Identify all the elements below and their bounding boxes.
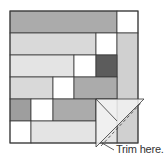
quilt-piece-white (53, 77, 74, 99)
quilt-piece-medium (53, 99, 96, 121)
quilt-piece-white (10, 121, 31, 143)
quilt-piece-light (10, 55, 74, 77)
quilt-piece-light (31, 121, 96, 143)
quilt-piece-light-striped (10, 77, 53, 99)
quilt-piece-dark (96, 55, 117, 77)
quilt-piece-white (96, 33, 117, 55)
quilt-diagram: Trim here. (0, 0, 167, 168)
trim-annotation: Trim here. (116, 143, 164, 155)
quilt-piece-medium-dark (10, 99, 31, 121)
quilt-piece-light-column (117, 33, 138, 143)
quilt-piece-medium (10, 11, 117, 33)
trim-leader-line (102, 143, 114, 150)
quilt-piece-white (74, 55, 96, 77)
quilt-piece-white (117, 11, 138, 33)
quilt-piece-white (31, 99, 53, 121)
quilt-piece-medium (74, 77, 117, 99)
quilt-piece-light-striped (10, 33, 96, 55)
